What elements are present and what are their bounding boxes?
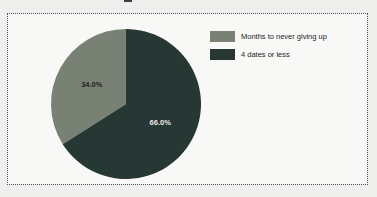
legend: Months to never giving up 4 dates or les… — [210, 31, 327, 67]
legend-label-0: Months to never giving up — [235, 31, 327, 42]
pie-chart-svg: 34.0%66.0% — [0, 0, 377, 197]
legend-label-1: 4 dates or less — [235, 49, 290, 60]
legend-item-0: Months to never giving up — [210, 31, 327, 42]
legend-swatch-1 — [210, 49, 235, 60]
pie-slice-label-0: 34.0% — [81, 80, 103, 89]
legend-item-1: 4 dates or less — [210, 49, 327, 60]
legend-swatch-0 — [210, 31, 235, 42]
pie-slice-label-1: 66.0% — [150, 118, 172, 127]
